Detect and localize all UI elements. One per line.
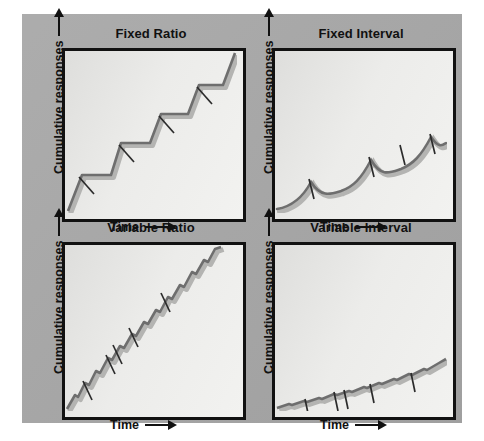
plot-frame-variable-ratio: [62, 242, 246, 420]
curve-shadow: [70, 250, 224, 412]
plot-svg-fixed-interval: [275, 51, 447, 213]
panel-title-variable-ratio: Variable Ratio: [62, 220, 240, 235]
figure-board: Fixed Ratio Cumulative responses: [22, 14, 462, 423]
panel-fixed-interval: Fixed Interval Cumulative responses: [250, 26, 450, 216]
figure-root: Fixed Ratio Cumulative responses: [0, 0, 484, 441]
panel-title-fixed-interval: Fixed Interval: [272, 26, 450, 41]
up-arrow-icon: [268, 210, 270, 236]
panel-variable-ratio: Variable Ratio Cumulative responses: [40, 220, 240, 416]
plot-frame-fixed-interval: [272, 48, 456, 222]
panel-variable-interval: Variable Interval Cumulative responses: [250, 220, 450, 416]
panel-fixed-ratio: Fixed Ratio Cumulative responses: [40, 26, 240, 216]
x-axis-label-text: Time: [110, 418, 139, 432]
x-axis-label-text: Time: [320, 418, 349, 432]
panel-title-fixed-ratio: Fixed Ratio: [62, 26, 240, 41]
reinforcement-mark: [400, 145, 405, 165]
up-arrow-icon: [268, 10, 270, 36]
curve-variable-interval: [277, 359, 446, 408]
panel-title-variable-interval: Variable Interval: [272, 220, 450, 235]
right-arrow-icon: [355, 424, 385, 426]
right-arrow-icon: [145, 424, 175, 426]
x-axis-label-variable-ratio: Time: [110, 418, 175, 432]
curve-fixed-ratio: [68, 53, 235, 211]
plot-frame-fixed-ratio: [62, 48, 246, 222]
x-axis-label-variable-interval: Time: [320, 418, 385, 432]
plot-svg-fixed-ratio: [65, 51, 237, 213]
up-arrow-icon: [58, 210, 60, 236]
plot-svg-variable-ratio: [65, 245, 237, 411]
up-arrow-icon: [58, 10, 60, 36]
plot-svg-variable-interval: [275, 245, 447, 411]
plot-frame-variable-interval: [272, 242, 456, 420]
